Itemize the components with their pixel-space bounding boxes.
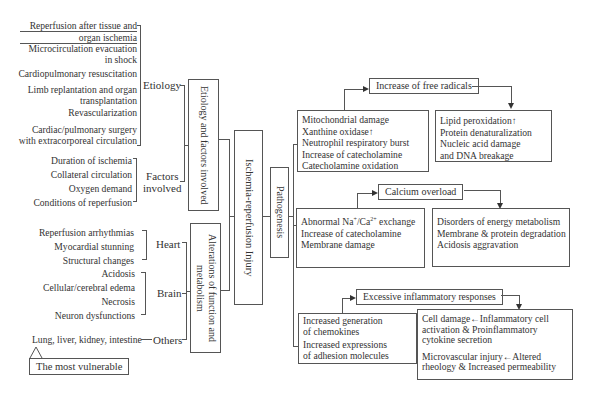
cause-text: Increased generation bbox=[303, 316, 416, 327]
brain-bracket bbox=[145, 272, 146, 315]
etiology-item-2: Microcirculation evacuationin shock bbox=[10, 43, 137, 65]
effect-text: cytokine secretion bbox=[422, 335, 572, 346]
effect-text: Lipid peroxidation↑ bbox=[440, 115, 551, 127]
others-label: Others bbox=[153, 334, 182, 346]
free-radicals-title: Increase of free radicals bbox=[369, 78, 479, 94]
etiology-label: Etiology bbox=[143, 79, 181, 91]
cause-text: of chemokines bbox=[303, 327, 416, 338]
pathogenesis-trunk bbox=[293, 144, 294, 347]
main-topic-box: Ischemia-reperfusion Injury bbox=[234, 130, 263, 305]
brain-label: Brain bbox=[157, 287, 181, 299]
etiology-bracket bbox=[140, 25, 141, 146]
effect-text: Membrane & protein degradation bbox=[437, 228, 569, 240]
others-item: Lung, liver, kidney, intestine bbox=[32, 334, 142, 345]
brain-item-2: Cellular/cerebral edema bbox=[10, 282, 135, 293]
heart-label: Heart bbox=[156, 238, 180, 250]
etiology-item-3: Cardiopulmonary resuscitation bbox=[5, 68, 137, 79]
inflammation-title: Excessive inflammatory responses bbox=[356, 289, 503, 305]
calcium-overload-title: Calcium overload bbox=[378, 184, 463, 200]
heart-item-2: Myocardial stunning bbox=[10, 241, 134, 252]
cause-text: Neutrophil respiratory burst bbox=[302, 137, 428, 149]
factors-bracket bbox=[136, 158, 137, 202]
heart-item-3: Structural changes bbox=[10, 255, 134, 266]
inflammation-effects-box: Cell damage←Inflammatory cell activation… bbox=[417, 309, 573, 380]
heart-bracket bbox=[146, 230, 147, 260]
etiology-item-1: Reperfusion after tissue and organ ische… bbox=[20, 20, 137, 44]
cause-text: Mitochondrial damage bbox=[302, 114, 428, 126]
most-vulnerable-callout: The most vulnerable bbox=[29, 358, 129, 375]
cause-text: Xanthine oxidase↑ bbox=[302, 126, 428, 138]
factor-item-3: Oxygen demand bbox=[10, 183, 132, 194]
effect-text: rheology & Increased permeability bbox=[422, 362, 572, 373]
effect-text: Nucleic acid damage bbox=[440, 138, 551, 150]
etiology-item-6: Cardiac/pulmonary surgerywith extracorpo… bbox=[5, 124, 137, 146]
cause-text: Increase of catecholamine bbox=[301, 228, 424, 240]
alterations-box: Alterations of function and metabolism bbox=[190, 223, 221, 353]
effect-text: Cell damage←Inflammatory cell bbox=[422, 314, 572, 325]
brain-item-4: Neuron dysfunctions bbox=[10, 310, 135, 321]
cause-text: Abnormal Na+/Ca2+ exchange bbox=[301, 216, 424, 228]
callout-pointer-icon bbox=[29, 345, 43, 359]
ischemia-reperfusion-diagram: Reperfusion after tissue and organ ische… bbox=[0, 0, 591, 399]
factor-item-2: Collateral circulation bbox=[10, 169, 132, 180]
cause-text: Increase of catecholamine bbox=[302, 149, 428, 161]
effect-text: and DNA breakage bbox=[440, 150, 551, 162]
inflammation-causes-box: Increased generation of chemokines Incre… bbox=[298, 313, 417, 364]
effect-text: Disorders of energy metabolism bbox=[437, 216, 569, 228]
heart-item-1: Reperfusion arrhythmias bbox=[10, 227, 134, 238]
etiology-item-5: Revascularization bbox=[10, 107, 137, 118]
cause-text: Membrane damage bbox=[301, 239, 424, 251]
calcium-effects-box: Disorders of energy metabolism Membrane … bbox=[432, 208, 570, 267]
effect-text: Acidosis aggravation bbox=[437, 239, 569, 251]
factor-item-1: Duration of ischemia bbox=[10, 155, 132, 166]
factor-item-4: Conditions of reperfusion bbox=[5, 197, 132, 208]
free-radicals-effects-box: Lipid peroxidation↑ Protein denaturaliza… bbox=[435, 110, 552, 162]
cause-text: Catecholamine oxidation bbox=[302, 160, 428, 172]
pathogenesis-box: Pathogenesis bbox=[270, 167, 289, 258]
effect-text: Protein denaturalization bbox=[440, 127, 551, 139]
free-radicals-causes-box: Mitochondrial damage Xanthine oxidase↑ N… bbox=[297, 110, 429, 172]
cause-text: Increased expressions bbox=[303, 340, 416, 351]
etiology-factors-box: Etiology and factors involved bbox=[188, 79, 219, 211]
calcium-causes-box: Abnormal Na+/Ca2+ exchange Increase of c… bbox=[296, 208, 425, 268]
etiology-item-4: Limb replantation and organtransplantati… bbox=[10, 84, 137, 106]
brain-item-1: Acidosis bbox=[10, 268, 135, 279]
cause-text: of adhesion molecules bbox=[303, 351, 416, 362]
brain-item-3: Necrosis bbox=[10, 296, 135, 307]
factors-label: Factorsinvolved bbox=[143, 170, 182, 194]
